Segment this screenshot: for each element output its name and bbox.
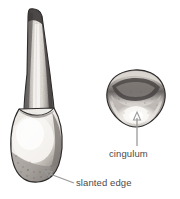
facial-view-tooth (8, 4, 68, 188)
label-cingulum: cingulum (109, 148, 148, 159)
illustration-canvas: cingulum slanted edge (0, 0, 180, 199)
tooth-crown (8, 104, 68, 188)
tooth-diagram-svg (0, 0, 180, 199)
label-slanted-edge: slanted edge (76, 177, 132, 188)
